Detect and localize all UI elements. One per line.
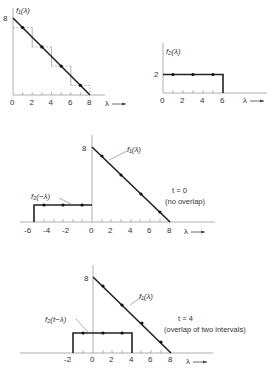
svg-text:8: 8 [87, 98, 92, 107]
svg-text:4: 4 [128, 226, 133, 235]
svg-text:0: 0 [10, 98, 15, 107]
svg-text:λ: λ [186, 357, 190, 366]
svg-text:8: 8 [82, 144, 87, 153]
svg-text:-4: -4 [43, 226, 51, 235]
svg-text:2: 2 [108, 226, 113, 235]
p1-ylabel: f₁(λ) [16, 6, 30, 15]
svg-text:8: 8 [167, 226, 172, 235]
svg-text:f₂(λ): f₂(λ) [166, 47, 181, 56]
panel-t0: 8 f₁(λ) f₂(−λ) t = 0 (no overlap) -6 -4 … [20, 135, 215, 236]
svg-text:f₂(t−λ): f₂(t−λ) [45, 315, 67, 324]
svg-text:4: 4 [49, 98, 54, 107]
svg-text:-6: -6 [24, 226, 32, 235]
svg-text:0: 0 [160, 96, 165, 105]
svg-text:6: 6 [148, 355, 153, 364]
svg-text:f₂(−λ): f₂(−λ) [31, 192, 51, 201]
svg-text:λ: λ [243, 96, 247, 105]
svg-text:6: 6 [147, 226, 152, 235]
svg-text:8: 8 [168, 355, 173, 364]
svg-text:(no overlap): (no overlap) [165, 197, 206, 206]
svg-text:6: 6 [220, 96, 225, 105]
svg-text:2: 2 [109, 355, 114, 364]
svg-text:8: 8 [84, 274, 89, 283]
svg-text:4: 4 [129, 355, 134, 364]
svg-text:4: 4 [200, 96, 205, 105]
p1-ytick: 8 [3, 14, 8, 23]
svg-text:-2: -2 [62, 226, 70, 235]
svg-text:-2: -2 [64, 355, 72, 364]
svg-text:f₁(λ): f₁(λ) [127, 145, 141, 154]
svg-text:λ: λ [105, 99, 109, 108]
convolution-figure: 8 f₁(λ) 0 2 4 6 8 λ f₂(λ) 2 0 2 4 6 λ [0, 0, 279, 372]
svg-text:(overlap of two intervals): (overlap of two intervals) [164, 325, 246, 334]
svg-text:2: 2 [154, 70, 159, 79]
svg-text:0: 0 [90, 355, 95, 364]
svg-text:λ: λ [184, 227, 188, 236]
svg-text:t = 0: t = 0 [172, 186, 187, 195]
panel-t4: 8 f₁(λ) f₂(t−λ) t = 4 (overlap of two in… [20, 265, 246, 366]
svg-text:6: 6 [68, 98, 73, 107]
svg-text:f₁(λ): f₁(λ) [139, 292, 153, 301]
panel-f1: 8 f₁(λ) 0 2 4 6 8 λ [3, 6, 126, 108]
svg-text:t = 4: t = 4 [178, 314, 193, 323]
svg-text:2: 2 [30, 98, 35, 107]
svg-text:2: 2 [180, 96, 185, 105]
panel-f2: f₂(λ) 2 0 2 4 6 λ [154, 43, 267, 105]
svg-text:0: 0 [89, 226, 94, 235]
